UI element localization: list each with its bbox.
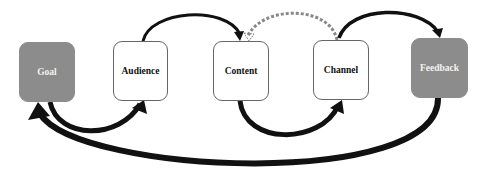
node-content: Content — [213, 41, 269, 101]
node-goal-label: Goal — [37, 67, 57, 77]
arrowhead-goal — [28, 102, 50, 120]
node-audience: Audience — [113, 41, 168, 101]
node-goal: Goal — [19, 42, 75, 102]
node-audience-label: Audience — [122, 66, 160, 76]
node-content-label: Content — [225, 66, 258, 76]
arrow-channel-to-content-dashed — [248, 13, 337, 40]
arrow-goal-to-audience — [50, 102, 140, 131]
node-feedback-label: Feedback — [420, 63, 459, 73]
arrowhead-content — [234, 31, 244, 41]
arrowhead-feedback — [432, 28, 443, 38]
node-feedback: Feedback — [411, 38, 468, 98]
node-channel: Channel — [313, 40, 369, 100]
node-channel-label: Channel — [324, 65, 358, 75]
arrow-channel-to-feedback — [339, 12, 438, 38]
arrow-audience-to-content — [143, 15, 240, 41]
arrow-content-to-channel — [240, 101, 338, 135]
